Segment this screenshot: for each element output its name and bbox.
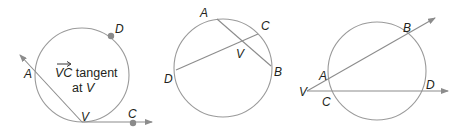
label-a: A (199, 6, 208, 20)
label-v: V (299, 85, 308, 99)
circle-2 (174, 19, 272, 117)
point-d-dot (108, 33, 114, 39)
label-a: A (23, 67, 32, 81)
figure-intersecting-chords: A C V B D (164, 6, 282, 117)
chord-cd (176, 34, 258, 70)
label-c: C (322, 95, 331, 109)
label-a: A (318, 69, 327, 83)
label-d: D (115, 22, 124, 36)
geometry-figures: D A V C VC tangent at V A C V B D B A V … (0, 0, 472, 136)
figure-two-secants: B A V C D (299, 18, 448, 120)
label-v: V (81, 110, 90, 124)
label-b: B (403, 21, 411, 35)
annotation-line2-point: V (86, 81, 96, 95)
label-c: C (128, 107, 137, 121)
svg-text:at V: at V (72, 81, 96, 95)
annotation-ray-name: VC (55, 66, 73, 80)
label-b: B (274, 65, 282, 79)
label-c: C (261, 19, 270, 33)
annotation-line2-prefix: at (72, 81, 86, 95)
figure-tangent-secant: D A V C VC tangent at V (20, 22, 152, 126)
label-d: D (164, 72, 173, 86)
label-v: V (236, 47, 245, 61)
tangent-annotation: VC tangent at V (55, 62, 118, 96)
annotation-line1: tangent (72, 66, 118, 80)
svg-text:VC tangent: VC tangent (55, 66, 118, 80)
label-d: D (426, 78, 435, 92)
